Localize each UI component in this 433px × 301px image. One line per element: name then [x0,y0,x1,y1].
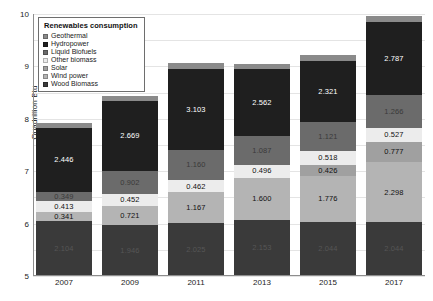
legend-item[interactable]: Wind power [43,72,138,80]
bar-group[interactable]: 2.1531.6000.4961.0872.562 [234,14,290,276]
bar-group[interactable]: 2.0251.1670.4621.1603.103 [168,14,224,276]
legend-swatch-icon [43,58,48,63]
bar-value-label: 2.044 [318,245,337,253]
bar-value-label: 1.121 [318,133,337,141]
bar-segment[interactable] [102,96,158,101]
bar-segment[interactable]: 2.787 [366,22,422,95]
bar-group[interactable]: 2.0441.7760.4260.5181.1212.321 [300,14,356,276]
bar-segment[interactable]: 2.153 [234,220,290,276]
bar-value-label: 0.777 [384,148,403,156]
bar-segment[interactable]: 0.462 [168,180,224,192]
bar-segment[interactable]: 2.044 [366,222,422,276]
bar-segment[interactable]: 0.777 [366,142,422,162]
bar-value-label: 0.452 [120,196,139,204]
legend-title: Renewables consumption [44,21,138,30]
bar-value-label: 2.562 [252,99,271,107]
legend-item-label: Solar [51,64,67,72]
bar-stack: 2.0251.1670.4621.1603.103 [168,63,224,276]
bar-value-label: 2.025 [186,246,205,254]
bar-segment[interactable]: 0.721 [102,206,158,225]
bar-segment[interactable]: 2.025 [168,223,224,276]
bar-segment[interactable]: 2.562 [234,69,290,136]
legend-item[interactable]: Liquid Biofuels [43,48,138,56]
bar-segment[interactable]: 2.446 [36,128,92,192]
bar-stack: 2.0441.7760.4260.5181.1212.321 [300,55,356,276]
legend-swatch-icon [43,34,48,39]
bar-segment[interactable]: 0.527 [366,128,422,142]
bar-value-label: 0.413 [54,203,73,211]
bar-segment[interactable]: 1.121 [300,122,356,151]
bar-segment[interactable] [366,16,422,22]
bar-segment[interactable]: 1.087 [234,136,290,164]
legend-item[interactable]: Other biomass [43,56,138,64]
bar-value-label: 0.341 [54,213,73,221]
bar-segment[interactable]: 1.600 [234,178,290,220]
bar-segment[interactable]: 1.266 [366,95,422,128]
bar-stack: 2.1531.6000.4961.0872.562 [234,64,290,276]
legend-swatch-icon [43,42,48,47]
bar-segment[interactable]: 2.044 [300,222,356,276]
bar-value-label: 2.104 [54,245,73,253]
bar-segment[interactable]: 0.426 [300,165,356,176]
bar-segment[interactable]: 0.413 [36,201,92,212]
bar-segment[interactable]: 0.902 [102,171,158,195]
bar-segment[interactable]: 1.160 [168,150,224,180]
bar-value-label: 1.266 [384,108,403,116]
x-tick-label: 2009 [102,278,158,294]
bar-value-label: 1.776 [318,195,337,203]
bar-stack: 2.1040.3410.4130.3492.446 [36,123,92,276]
bar-segment[interactable]: 0.518 [300,151,356,165]
bar-value-label: 1.167 [186,204,205,212]
bar-segment[interactable]: 0.349 [36,192,92,201]
y-tick-label: 7 [25,167,29,176]
x-tick-label: 2011 [168,278,224,294]
bar-value-label: 0.496 [252,167,271,175]
bar-segment[interactable]: 2.669 [102,101,158,171]
bar-segment[interactable]: 2.321 [300,61,356,122]
bar-group[interactable]: 2.0442.2980.7770.5271.2662.787 [366,14,422,276]
legend: Renewables consumption GeothermalHydropo… [38,17,145,92]
bar-segment[interactable]: 0.341 [36,212,92,221]
bar-value-label: 1.087 [252,147,271,155]
bar-value-label: 3.103 [186,106,205,114]
legend-swatch-icon [43,66,48,71]
bar-value-label: 2.446 [54,156,73,164]
bar-segment[interactable] [234,64,290,70]
bar-value-label: 2.044 [384,245,403,253]
renewables-consumption-chart: Quadrillion Btu 109876543210 2.1040.3410… [0,0,433,301]
legend-item[interactable]: Wood Biomass [43,80,138,88]
legend-item[interactable]: Geothermal [43,32,138,40]
bar-value-label: 2.787 [384,55,403,63]
legend-item-label: Geothermal [51,32,88,40]
bar-segment[interactable]: 0.452 [102,194,158,206]
bar-value-label: 1.600 [252,195,271,203]
bar-segment[interactable]: 3.103 [168,69,224,150]
bar-segment[interactable]: 1.167 [168,192,224,223]
legend-item-label: Wood Biomass [51,80,98,88]
bar-segment[interactable]: 1.946 [102,225,158,276]
x-tick-label: 2017 [366,278,422,294]
bar-value-label: 0.426 [318,167,337,175]
bar-segment[interactable] [300,55,356,61]
y-tick-label: 8 [25,114,29,123]
bar-segment[interactable]: 2.298 [366,162,422,222]
x-axis-labels: 200720092011201320152017 [33,278,425,294]
legend-item[interactable]: Solar [43,64,138,72]
y-axis-line [33,14,34,276]
bar-value-label: 2.321 [318,88,337,96]
bar-value-label: 0.527 [384,131,403,139]
x-tick-label: 2013 [234,278,290,294]
bar-segment[interactable] [168,63,224,69]
bar-segment[interactable]: 0.496 [234,165,290,178]
gridline: 0 [33,276,425,277]
y-tick-label: 9 [25,62,29,71]
y-tick-label: 10 [20,10,29,19]
legend-item[interactable]: Hydropower [43,40,138,48]
y-tick-label: 6 [25,219,29,228]
legend-swatch-icon [43,74,48,79]
bar-stack: 1.9460.7210.4520.9022.669 [102,96,158,276]
bar-segment[interactable]: 2.104 [36,221,92,276]
bar-segment[interactable]: 1.776 [300,176,356,223]
legend-item-label: Hydropower [51,40,89,48]
bar-segment[interactable] [36,123,92,128]
